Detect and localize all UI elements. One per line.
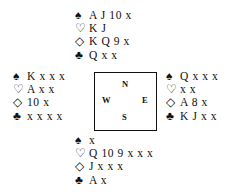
south-spades-cards: x	[89, 134, 95, 147]
east-diamonds-cards: A 8 x	[180, 96, 208, 109]
club-icon: ♣	[166, 110, 180, 123]
diamond-icon: ◇	[75, 160, 89, 173]
compass-east-label: E	[142, 95, 148, 105]
west-diamonds-cards: 10 x	[27, 96, 50, 109]
north-hearts-cards: K J	[89, 22, 106, 35]
north-spades-cards: A J 10 x	[89, 9, 132, 22]
north-clubs-cards: Q x x	[89, 49, 118, 62]
east-hand: ♠ Q x x x ♡ x x ◇ A 8 x ♣ K J x x	[166, 70, 218, 123]
west-hearts-cards: A x x	[27, 83, 55, 96]
north-clubs-row: ♣ Q x x	[75, 49, 132, 62]
south-diamonds-row: ◇ J x x x	[75, 160, 153, 173]
compass-south-label: S	[122, 112, 127, 122]
east-hearts-cards: x x	[180, 83, 196, 96]
east-clubs-row: ♣ K J x x	[166, 110, 218, 123]
south-diamonds-cards: J x x x	[89, 160, 124, 173]
north-hand: ♠ A J 10 x ♡ K J ◇ K Q 9 x ♣ Q x x	[75, 9, 132, 62]
east-clubs-cards: K J x x	[180, 110, 217, 123]
compass-north-label: N	[122, 79, 128, 89]
west-spades-cards: K x x x	[27, 70, 65, 83]
west-hand: ♠ K x x x ♡ A x x ◇ 10 x ♣ x x x x	[13, 70, 65, 123]
north-diamonds-row: ◇ K Q 9 x	[75, 35, 132, 48]
north-diamonds-cards: K Q 9 x	[89, 35, 130, 48]
south-spades-row: ♠ x	[75, 134, 153, 147]
south-hearts-cards: Q 10 9 x x x	[89, 147, 153, 160]
club-icon: ♣	[75, 49, 89, 62]
south-clubs-cards: A x	[89, 174, 107, 187]
west-clubs-row: ♣ x x x x	[13, 110, 65, 123]
east-spades-cards: Q x x x	[180, 70, 218, 83]
west-diamonds-row: ◇ 10 x	[13, 96, 65, 109]
south-hearts-row: ♡ Q 10 9 x x x	[75, 147, 153, 160]
compass-box: N W E S	[94, 72, 157, 131]
club-icon: ♣	[75, 174, 89, 187]
east-diamonds-row: ◇ A 8 x	[166, 96, 218, 109]
diamond-icon: ◇	[75, 35, 89, 48]
south-clubs-row: ♣ A x	[75, 174, 153, 187]
compass-west-label: W	[102, 95, 111, 105]
west-clubs-cards: x x x x	[27, 110, 63, 123]
diamond-icon: ◇	[166, 96, 180, 109]
club-icon: ♣	[13, 110, 27, 123]
diamond-icon: ◇	[13, 96, 27, 109]
south-hand: ♠ x ♡ Q 10 9 x x x ◇ J x x x ♣ A x	[75, 134, 153, 187]
